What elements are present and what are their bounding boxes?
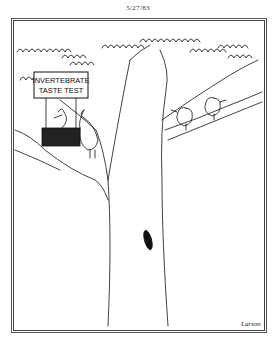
cartoon-illustration: INVERTEBRATE TASTE TEST	[0, 0, 276, 341]
vendor-bird	[54, 109, 67, 128]
artist-signature: Larson	[241, 320, 261, 328]
customer-bird	[80, 110, 99, 158]
booth-counter	[42, 128, 80, 146]
sign-line-1: INVERTEBRATE	[33, 76, 90, 85]
canopy-foliage	[17, 39, 252, 58]
knot-hole	[142, 229, 154, 250]
sign-line-2: TASTE TEST	[39, 86, 84, 95]
perched-bird-2	[205, 98, 226, 121]
